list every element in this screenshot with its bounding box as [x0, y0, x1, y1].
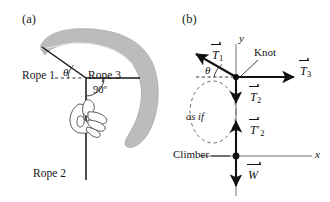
tension-2-prime-vector-label: T’2: [250, 123, 264, 138]
tension-3-vector-label: T3: [300, 64, 311, 79]
vector-arrow-t2: T: [250, 90, 257, 105]
weight-vector-label: W: [248, 168, 258, 183]
as-if-label: as if: [186, 111, 204, 122]
angle-theta-label-b: θ: [205, 64, 210, 76]
x-axis-label: x: [315, 148, 320, 160]
vector-arrow-w: W: [248, 168, 258, 183]
tension-1-vector-label: T1: [212, 48, 223, 63]
knot-leader-line: [241, 60, 258, 76]
physics-figure-rope-tension: (a) Rope 1 Rope 3 Rope 2 θ 90º: [0, 0, 330, 202]
vector-arrow-t3: T: [300, 64, 307, 79]
vector-arrow-t2-prime: T: [250, 123, 257, 138]
knot-label: Knot: [254, 46, 276, 58]
tension-2-vector-label: T2: [250, 90, 261, 105]
vector-arrow-t1: T: [212, 48, 219, 63]
panel-b-label: (b): [182, 12, 197, 27]
panel-b-graphics: [0, 0, 330, 202]
y-axis-label: y: [239, 32, 244, 44]
climber-label: Climber: [173, 148, 209, 160]
